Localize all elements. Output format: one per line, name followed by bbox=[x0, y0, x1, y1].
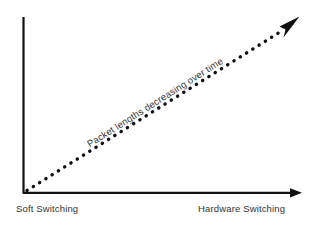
x-axis-label-hardware-switching: Hardware Switching bbox=[198, 203, 285, 215]
diagram-canvas bbox=[0, 0, 317, 227]
arrow-up-right-icon bbox=[280, 17, 300, 38]
trend-dotted-line bbox=[27, 30, 284, 191]
arrow-right-icon bbox=[290, 188, 302, 197]
x-axis-label-soft-switching: Soft Switching bbox=[16, 203, 78, 215]
packet-switching-diagram: Packet lengths decreasing over time Soft… bbox=[0, 0, 317, 227]
